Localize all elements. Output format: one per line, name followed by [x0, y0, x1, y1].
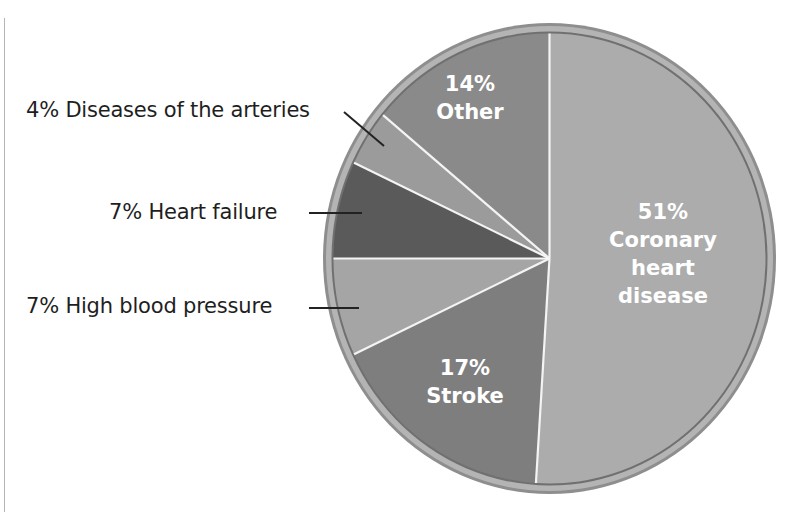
label-stroke-name: Stroke [426, 382, 504, 410]
label-stroke-pct: 17% [426, 354, 504, 382]
label-high-blood-pressure: 7% High blood pressure [26, 294, 272, 318]
label-coronary-line1: Coronary [609, 226, 717, 254]
label-other: 14% Other [436, 70, 503, 126]
label-other-pct: 14% [436, 70, 503, 98]
label-heart-failure: 7% Heart failure [109, 200, 277, 224]
label-other-name: Other [436, 98, 503, 126]
label-coronary: 51% Coronary heart disease [609, 198, 717, 310]
label-coronary-line2: heart [609, 254, 717, 282]
label-arteries: 4% Diseases of the arteries [26, 98, 310, 122]
label-stroke: 17% Stroke [426, 354, 504, 410]
label-coronary-pct: 51% [609, 198, 717, 226]
label-coronary-line3: disease [609, 282, 717, 310]
